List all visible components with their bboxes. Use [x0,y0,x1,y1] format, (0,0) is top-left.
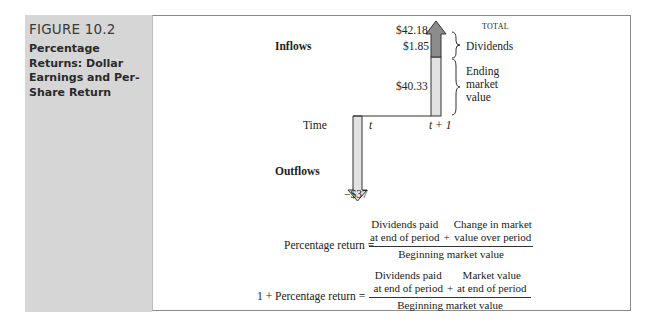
formula2-lhs: 1 + Percentage return = [257,290,365,302]
formula2-num-left: at end of period [374,282,443,295]
dividends-label: Dividends [466,40,513,52]
ending-value-bar [431,57,441,116]
total-caption: TOTAL [482,22,509,31]
formula1-num-right: Change in market [454,218,532,231]
ending-value-brace-icon [452,59,460,115]
formula1-num-left: at end of period [370,231,439,244]
formula1-num-right: value over period [454,231,531,244]
formula2-plus: + [443,282,457,295]
formula1-num-left: Dividends paid [371,218,438,231]
ending-label-line: Ending [466,65,499,78]
formula2-num-right: at end of period [457,282,526,295]
formula2-num-right: Market value [463,269,521,282]
formula2-denominator: Beginning market value [369,299,531,312]
formula2-fraction-bar [369,297,531,298]
cash-flow-diagram [0,0,650,329]
formula2-num-left: Dividends paid [375,269,442,282]
outflows-label: Outflows [275,165,320,177]
ending-label-line: market [466,78,499,91]
formula2-fraction: Dividends paid at end of period + Market… [369,269,531,312]
t-label: t [369,119,372,131]
formula1-lhs: Percentage return = [284,239,374,251]
inflow-arrow-icon [426,21,446,57]
formula1-plus: + [439,231,453,244]
dividends-brace-icon [452,32,460,58]
ending-value: $40.33 [396,80,428,92]
ending-label-line: value [466,91,499,104]
total-value: $42.18 [396,24,428,36]
time-label: Time [303,119,327,131]
inflows-label: Inflows [275,40,311,52]
formula1-denominator: Beginning market value [369,248,533,261]
t1-label: t + 1 [429,119,451,131]
ending-label: Ending market value [466,65,499,104]
outflow-value: −$37 [344,188,368,200]
formula1-fraction-bar [369,246,533,247]
dividends-value: $1.85 [403,40,429,52]
formula1-fraction: Dividends paid at end of period + Change… [369,218,533,261]
